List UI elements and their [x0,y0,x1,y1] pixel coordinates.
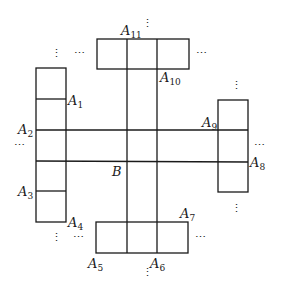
ellipsis-bottom-vertical: ⋮ [142,266,153,279]
label-a8: A8 [249,155,265,172]
grid-diagram: A1 A2 A3 A4 A5 A6 A7 A8 A9 A10 A11 B ⋮ ⋯… [0,0,282,287]
left-rectangle [36,68,66,222]
label-a1: A1 [67,93,83,110]
ellipsis-right: ⋯ [254,139,265,152]
ellipsis-top-vertical: ⋮ [142,17,153,30]
label-a2: A2 [17,122,33,139]
ellipsis-bottom-right: ⋯ [195,231,206,244]
ellipsis-bottom-left: ⋯ [73,231,84,244]
bottom-rectangle [96,222,188,253]
label-b: B [111,164,122,179]
label-a4: A4 [67,215,83,232]
ellipsis-top-right: ⋯ [196,47,207,60]
horizontal-line-2 [36,161,248,162]
ellipsis-upper-right-vertical: ⋮ [231,79,242,92]
label-a3: A3 [17,184,33,201]
label-a10: A10 [159,70,181,87]
ellipsis-left: ⋯ [14,139,25,152]
ellipsis-lower-left-vertical: ⋮ [51,231,62,244]
label-a5: A5 [87,256,103,273]
right-rectangle [218,100,248,192]
label-a7: A7 [179,206,195,223]
label-a11: A11 [120,23,142,40]
ellipsis-top-left: ⋯ [74,47,85,60]
ellipsis-upper-left-vertical: ⋮ [51,47,62,60]
top-rectangle [97,39,189,69]
label-a9: A9 [201,115,217,132]
ellipsis-lower-right-vertical: ⋮ [231,202,242,215]
